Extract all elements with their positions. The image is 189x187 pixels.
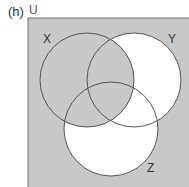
set-z-label: Z [147, 161, 154, 175]
venn-diagram: X Y Z [0, 0, 189, 187]
set-x-label: X [43, 32, 51, 46]
set-y-label: Y [168, 32, 176, 46]
